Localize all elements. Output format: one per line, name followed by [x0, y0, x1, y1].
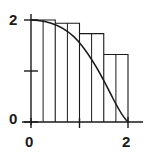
riemann-sum-plot	[0, 0, 149, 155]
y-axis-label-0: 0	[9, 111, 17, 126]
riemann-sum-figure: 2 0 0 2	[0, 0, 149, 155]
axes	[22, 14, 143, 125]
x-axis-label-2: 2	[122, 134, 130, 149]
y-axis-label-2: 2	[9, 12, 17, 27]
tick-marks	[24, 20, 128, 128]
circumscribed-rectangles	[31, 20, 128, 122]
x-axis-label-0: 0	[25, 134, 33, 149]
